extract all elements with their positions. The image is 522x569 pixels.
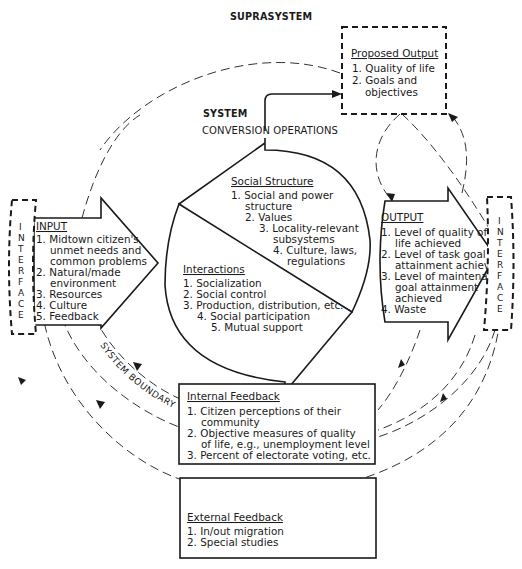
- interface-right-letter: I: [498, 216, 501, 226]
- interface-right-letter: R: [497, 260, 503, 270]
- external-feedback-line: 2. Special studies: [187, 536, 278, 548]
- suprasystem-title: SUPRASYSTEM: [230, 11, 312, 22]
- feedback-arrowhead-right-inner: [398, 359, 405, 368]
- external-feedback-heading: External Feedback: [187, 511, 283, 523]
- internal-feedback-line: 3. Percent of electorate voting, etc.: [187, 449, 371, 461]
- interface-right-letter: C: [497, 293, 503, 303]
- interface-left-letter: I: [19, 222, 22, 232]
- interface-right-letter: E: [497, 304, 503, 314]
- feedback-arrowhead-left-outer: [96, 400, 105, 409]
- internal-feedback-heading: Internal Feedback: [187, 390, 280, 402]
- system-boundary-label: SYSTEM BOUNDARY: [98, 340, 177, 410]
- interface-right-letter: N: [497, 227, 504, 237]
- interface-left-letter: F: [18, 277, 23, 287]
- input-line: 5. Feedback: [36, 310, 99, 322]
- interface-left-letter: A: [18, 288, 25, 298]
- interface-right-letter: T: [496, 238, 503, 248]
- feedback-arrowhead-right-outer: [440, 393, 447, 402]
- interface-left-letter: R: [18, 266, 24, 276]
- outer-boundary-arc-upper-left: [82, 115, 140, 218]
- proposed-output-line: objectives: [365, 86, 418, 98]
- proposed-output-line: 2. Goals and: [352, 74, 417, 86]
- output-heading: OUTPUT: [381, 211, 424, 223]
- social-structure-heading: Social Structure: [231, 175, 313, 187]
- feedback-arrowhead-left-inner: [133, 362, 142, 371]
- interface-right-letters: I N T E R F A C E: [496, 216, 504, 314]
- proposed-output-line: 1. Quality of life: [352, 62, 435, 74]
- output-line: 4. Waste: [381, 303, 426, 315]
- interface-left-letter: T: [17, 244, 24, 254]
- interface-left-letter: E: [18, 310, 24, 320]
- interface-left-letter: E: [18, 255, 24, 265]
- interface-left-letter: N: [18, 233, 25, 243]
- proposed-output-loop-right: [452, 116, 467, 193]
- conversion-to-proposed-output-arrowhead: [332, 90, 342, 98]
- interactions-line: 5. Mutual support: [211, 321, 303, 333]
- system-label: SYSTEM: [203, 108, 248, 119]
- interface-right-letter: A: [497, 282, 504, 292]
- interface-left-letter: C: [18, 299, 24, 309]
- input-heading: INPUT: [36, 220, 68, 232]
- conversion-operations-label: CONVERSION OPERATIONS: [202, 125, 338, 136]
- interface-right-letter: E: [497, 249, 503, 259]
- interface-left-letters: I N T E R F A C E: [17, 222, 25, 320]
- social-structure-line: regulations: [287, 255, 345, 267]
- system-boundary-arc-right-outer: [378, 330, 495, 437]
- proposed-output-arrowhead-up: [448, 113, 458, 122]
- feedback-arrowhead-left-mid: [18, 377, 26, 385]
- outer-boundary-arc-top: [100, 62, 340, 150]
- system-boundary-arc-right-inner: [378, 330, 420, 410]
- system-diagram: SUPRASYSTEM Proposed Output 1. Quality o…: [0, 0, 522, 569]
- proposed-output-heading: Proposed Output: [351, 47, 438, 59]
- interface-right-letter: F: [497, 271, 502, 281]
- interactions-heading: Interactions: [183, 263, 245, 275]
- proposed-output-loop-left: [376, 114, 400, 198]
